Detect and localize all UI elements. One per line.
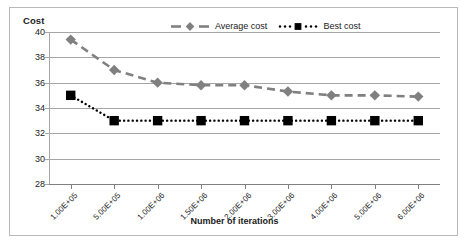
- data-point-marker: [327, 116, 336, 125]
- x-tick-mark: [288, 185, 289, 189]
- x-tick-mark: [114, 185, 115, 189]
- data-point-marker: [414, 116, 423, 125]
- y-tick-label: 30: [35, 154, 45, 164]
- data-point-marker: [152, 77, 162, 87]
- y-tick-label: 40: [35, 27, 45, 37]
- data-point-marker: [413, 91, 423, 101]
- data-point-marker: [109, 65, 119, 75]
- data-point-marker: [326, 90, 336, 100]
- data-point-marker: [196, 80, 206, 90]
- legend-marker-average-cost: [170, 21, 210, 32]
- x-tick-mark: [418, 185, 419, 189]
- chart-plot-wrapper: Cost Average cost: [10, 8, 459, 237]
- y-tick-mark: [45, 32, 49, 33]
- y-tick-label: 32: [35, 128, 45, 138]
- data-point-marker: [153, 116, 162, 125]
- x-tick-mark: [201, 185, 202, 189]
- data-point-marker: [283, 116, 292, 125]
- data-point-marker: [370, 116, 379, 125]
- y-tick-mark: [45, 83, 49, 84]
- data-point-marker: [66, 91, 75, 100]
- y-tick-label: 28: [35, 179, 45, 189]
- data-point-marker: [196, 116, 205, 125]
- legend-item-average-cost[interactable]: Average cost: [170, 21, 267, 32]
- x-tick-mark: [245, 185, 246, 189]
- y-tick-mark: [45, 184, 49, 185]
- data-point-marker: [239, 80, 249, 90]
- x-tick-mark: [375, 185, 376, 189]
- chart-frame: Cost Average cost: [9, 7, 458, 236]
- data-point-marker: [240, 116, 249, 125]
- legend-label-best-cost: Best cost: [323, 21, 360, 31]
- y-tick-label: 34: [35, 103, 45, 113]
- y-axis-title: Cost: [23, 15, 45, 26]
- legend-label-average-cost: Average cost: [215, 21, 267, 31]
- data-point-marker: [109, 116, 118, 125]
- x-tick-mark: [158, 185, 159, 189]
- legend-marker-best-cost: [278, 21, 318, 32]
- y-tick-label: 36: [35, 78, 45, 88]
- x-tick-mark: [71, 185, 72, 189]
- x-axis-title: Number of iterations: [10, 216, 459, 226]
- y-tick-mark: [45, 108, 49, 109]
- x-tick-mark: [331, 185, 332, 189]
- plot-area: [49, 32, 440, 184]
- series-layer: [49, 32, 440, 184]
- data-point-marker: [370, 90, 380, 100]
- y-tick-mark: [45, 57, 49, 58]
- legend-item-best-cost[interactable]: Best cost: [278, 21, 360, 32]
- data-point-marker: [283, 86, 293, 96]
- y-tick-mark: [45, 159, 49, 160]
- y-tick-mark: [45, 133, 49, 134]
- y-tick-label: 38: [35, 52, 45, 62]
